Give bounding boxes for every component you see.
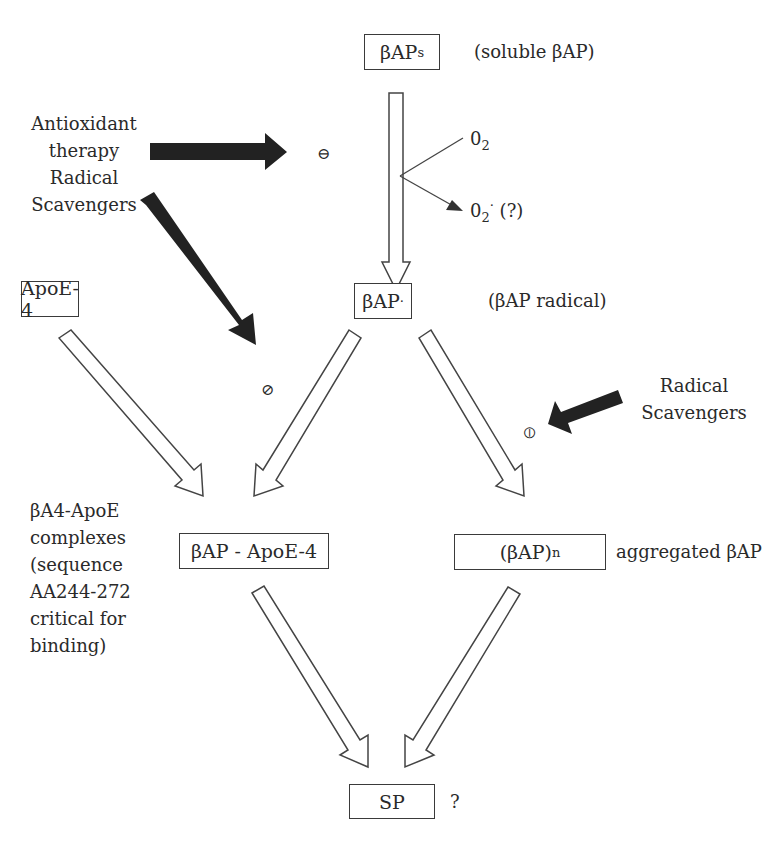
complexes-label: βA4-ApoE complexes (sequence AA244-272 c… xyxy=(30,497,131,659)
node-bap-apoe4: βAP - ApoE-4 xyxy=(179,533,329,569)
node-sp: SP xyxy=(349,784,435,819)
bap-radical-note: (βAP radical) xyxy=(488,290,606,312)
black-arrow-diagonal xyxy=(140,192,256,345)
node-bap-aggregated: (βAP)n xyxy=(454,534,606,570)
node-apoe4: ApoE-4 xyxy=(21,281,79,317)
inhibition-symbol-right: ⦶ xyxy=(524,423,536,442)
black-arrow-left xyxy=(548,390,623,434)
hollow-arrow-down xyxy=(382,93,410,290)
antioxidant-label: Antioxidant therapy Radical Scavengers xyxy=(24,110,144,218)
black-arrow-right xyxy=(150,133,287,170)
o2-arrowhead xyxy=(446,200,463,211)
node-bap-radical: βAP· xyxy=(354,283,412,319)
hollow-arrow-radical-right xyxy=(419,330,524,496)
soluble-bap-note: (soluble βAP) xyxy=(474,41,595,63)
node-bap-soluble: βAPs xyxy=(364,34,440,70)
hollow-arrow-apoe4 xyxy=(59,330,203,496)
radical-scavengers-label: Radical Scavengers xyxy=(634,372,754,426)
inhibition-symbol-top: ⊖ xyxy=(317,144,330,163)
o2-label: 02 xyxy=(470,128,490,153)
hollow-arrow-aggregated-sp xyxy=(405,587,520,767)
aggregated-bap-note: aggregated βAP xyxy=(616,541,762,563)
hollow-arrow-complex-sp xyxy=(252,586,368,767)
node-bap-soluble-label: βAP xyxy=(380,41,418,63)
hollow-arrow-radical-left xyxy=(254,330,361,496)
o2-radical-label: 02· (?) xyxy=(470,198,523,225)
sp-note: ? xyxy=(450,791,460,813)
inhibition-symbol-left: ⊘ xyxy=(261,380,274,399)
